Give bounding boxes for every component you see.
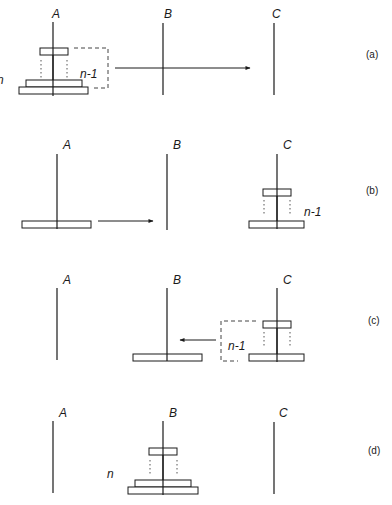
peg-label-c: C: [283, 138, 292, 152]
panel-a: A B C n n-1 (a): [0, 7, 378, 96]
panel-label-a: (a): [366, 49, 378, 60]
panel-d: A B C n (d): [53, 406, 380, 495]
towers-of-hanoi-diagram: A B C n n-1 (a) A B C n-1 (b): [0, 0, 392, 505]
panel-label-c: (c): [368, 315, 380, 326]
panel-label-d: (d): [368, 445, 380, 456]
peg-label-a: A: [62, 138, 71, 152]
panel-label-b: (b): [366, 185, 378, 196]
peg-label-c: C: [272, 7, 281, 21]
peg-label-a: A: [62, 273, 71, 287]
n-label: n: [0, 73, 4, 87]
peg-label-a: A: [58, 406, 67, 420]
peg-label-b: B: [164, 7, 172, 21]
disk-small: [40, 48, 68, 55]
n-label: n: [107, 467, 114, 481]
peg-label-b: B: [169, 406, 177, 420]
panel-b: A B C n-1 (b): [22, 138, 378, 230]
n-1-label: n-1: [228, 339, 245, 353]
peg-label-b: B: [173, 273, 181, 287]
n-1-label: n-1: [80, 67, 97, 81]
peg-label-b: B: [173, 138, 181, 152]
disk-medium: [26, 80, 82, 87]
n-1-label: n-1: [304, 205, 321, 219]
panel-c: A B C n-1 (c): [57, 273, 380, 362]
peg-label-c: C: [279, 406, 288, 420]
peg-label-a: A: [51, 7, 60, 21]
peg-label-c: C: [283, 273, 292, 287]
